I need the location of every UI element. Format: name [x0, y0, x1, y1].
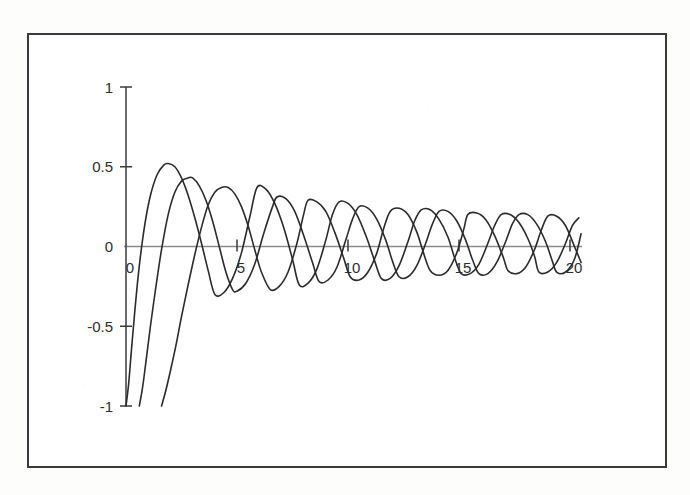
- y-tick-label: 0: [105, 238, 113, 255]
- y-tick-labels: 10.50-0.5-1: [87, 79, 113, 415]
- curve-curve-3: [162, 187, 582, 406]
- figure-frame: 05101520 10.50-0.5-1: [27, 33, 667, 468]
- x-tick-label: 0: [126, 259, 134, 276]
- y-tick-label: 1: [105, 79, 113, 96]
- x-tick-label: 15: [455, 259, 472, 276]
- damped-oscillation-chart: 05101520 10.50-0.5-1: [29, 35, 669, 470]
- data-curves: [126, 163, 581, 406]
- figure-page: 05101520 10.50-0.5-1: [0, 0, 690, 495]
- y-tick-label: -0.5: [87, 318, 113, 335]
- x-tick-label: 20: [566, 259, 583, 276]
- x-tick-label: 5: [237, 259, 245, 276]
- plot-area: 05101520 10.50-0.5-1: [29, 35, 669, 470]
- x-tick-label: 10: [344, 259, 361, 276]
- y-tick-label: -1: [100, 398, 113, 415]
- curve-curve-1: [126, 163, 579, 406]
- y-tick-label: 0.5: [92, 158, 113, 175]
